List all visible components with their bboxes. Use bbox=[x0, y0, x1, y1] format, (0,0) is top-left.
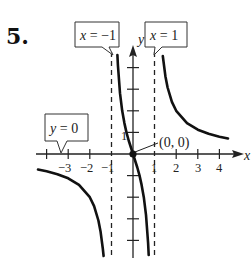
svg-text:x = 1: x = 1 bbox=[149, 28, 178, 43]
x-tick-label: −2 bbox=[80, 161, 93, 175]
callout-x-neg1: x = −1 bbox=[75, 22, 119, 55]
y-axis-label: y bbox=[136, 32, 145, 47]
point-leader-line bbox=[135, 143, 158, 152]
point-label: (0, 0) bbox=[159, 135, 190, 151]
callout-eq: = bbox=[86, 28, 101, 43]
callout-value: −1 bbox=[101, 28, 116, 43]
x-tick-label: −3 bbox=[58, 161, 71, 175]
callout-value: 1 bbox=[171, 28, 178, 43]
problem-number: 5. bbox=[6, 23, 29, 49]
x-tick-label: 2 bbox=[173, 161, 179, 175]
curve-right-branch bbox=[163, 56, 228, 139]
callout-eq: = bbox=[56, 121, 71, 136]
x-tick-label: −1 bbox=[101, 161, 114, 175]
x-axis-label: x bbox=[243, 148, 251, 163]
graph-figure: 5. x y −3 − bbox=[0, 0, 252, 259]
callout-eq: = bbox=[156, 28, 171, 43]
x-tick-label: 3 bbox=[195, 161, 201, 175]
callout-value: 0 bbox=[71, 121, 78, 136]
x-tick-label: 4 bbox=[216, 161, 223, 175]
svg-text:y = 0: y = 0 bbox=[48, 121, 78, 136]
x-tick-label: 1 bbox=[151, 161, 157, 175]
svg-text:x = −1: x = −1 bbox=[79, 28, 116, 43]
callout-y-0: y = 0 bbox=[45, 114, 88, 153]
callout-x-1: x = 1 bbox=[145, 22, 187, 55]
curve-left-branch bbox=[38, 170, 104, 257]
